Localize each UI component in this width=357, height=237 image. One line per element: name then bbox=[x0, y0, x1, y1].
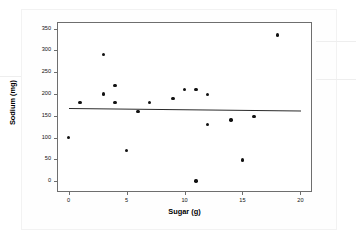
x-tick-label: 0 bbox=[67, 198, 70, 204]
y-tick-mark bbox=[54, 138, 57, 139]
x-tick-mark bbox=[69, 192, 70, 195]
data-point bbox=[136, 110, 139, 113]
data-point bbox=[241, 158, 244, 161]
x-tick-label: 5 bbox=[125, 198, 128, 204]
y-tick-mark bbox=[54, 72, 57, 73]
screenshot-page: 050100150200250300350 05101520 Sugar (g)… bbox=[0, 0, 357, 237]
plot-area bbox=[57, 22, 312, 192]
data-point bbox=[171, 97, 174, 100]
x-tick-mark bbox=[300, 192, 301, 195]
y-tick-label: 50 bbox=[0, 156, 51, 162]
y-tick-mark bbox=[54, 29, 57, 30]
y-tick-label: 0 bbox=[0, 178, 51, 184]
y-tick-mark bbox=[54, 116, 57, 117]
data-point bbox=[194, 88, 197, 91]
x-tick-mark bbox=[127, 192, 128, 195]
y-tick-mark bbox=[54, 159, 57, 160]
y-tick-mark bbox=[54, 50, 57, 51]
x-axis-title: Sugar (g) bbox=[57, 207, 312, 216]
data-point bbox=[252, 115, 255, 118]
x-tick-label: 10 bbox=[181, 198, 187, 204]
x-tick-mark bbox=[242, 192, 243, 195]
data-point bbox=[276, 33, 279, 36]
data-point bbox=[229, 118, 232, 121]
y-tick-label: 350 bbox=[0, 26, 51, 32]
data-point bbox=[194, 179, 197, 182]
y-tick-mark bbox=[54, 94, 57, 95]
data-point bbox=[113, 101, 116, 104]
y-tick-label: 300 bbox=[0, 47, 51, 53]
y-axis-title: Sodium (mg) bbox=[8, 58, 17, 148]
scatter-chart: 050100150200250300350 05101520 Sugar (g)… bbox=[0, 0, 357, 237]
data-point bbox=[113, 84, 116, 87]
x-tick-label: 15 bbox=[239, 198, 245, 204]
data-point bbox=[102, 92, 105, 95]
x-tick-mark bbox=[185, 192, 186, 195]
x-tick-label: 20 bbox=[297, 198, 303, 204]
y-tick-mark bbox=[54, 181, 57, 182]
